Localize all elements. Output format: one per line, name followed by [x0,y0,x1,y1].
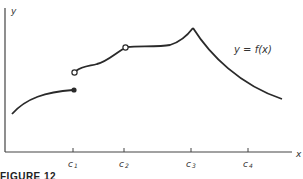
open-point-c1 [72,70,77,75]
tick-label-c3: c3 [186,159,196,169]
tick-label-c2: c2 [119,159,129,169]
curve-segment-2 [76,49,123,71]
function-graph: y x c1 c2 c3 c4 y = f(x) [0,0,303,179]
curve-label: y = f(x) [233,44,272,55]
curve-segment-1 [12,90,73,114]
figure-caption: FIGURE 12 [0,172,56,179]
curve-segment-4 [193,28,282,99]
tick-label-c4: c4 [243,159,253,169]
x-axis-label: x [295,149,302,159]
tick-label-c1: c1 [68,159,78,169]
y-axis-label: y [10,6,17,16]
curve-segment-3 [127,28,193,47]
closed-point-c1 [71,87,76,92]
open-point-c2 [123,45,128,50]
